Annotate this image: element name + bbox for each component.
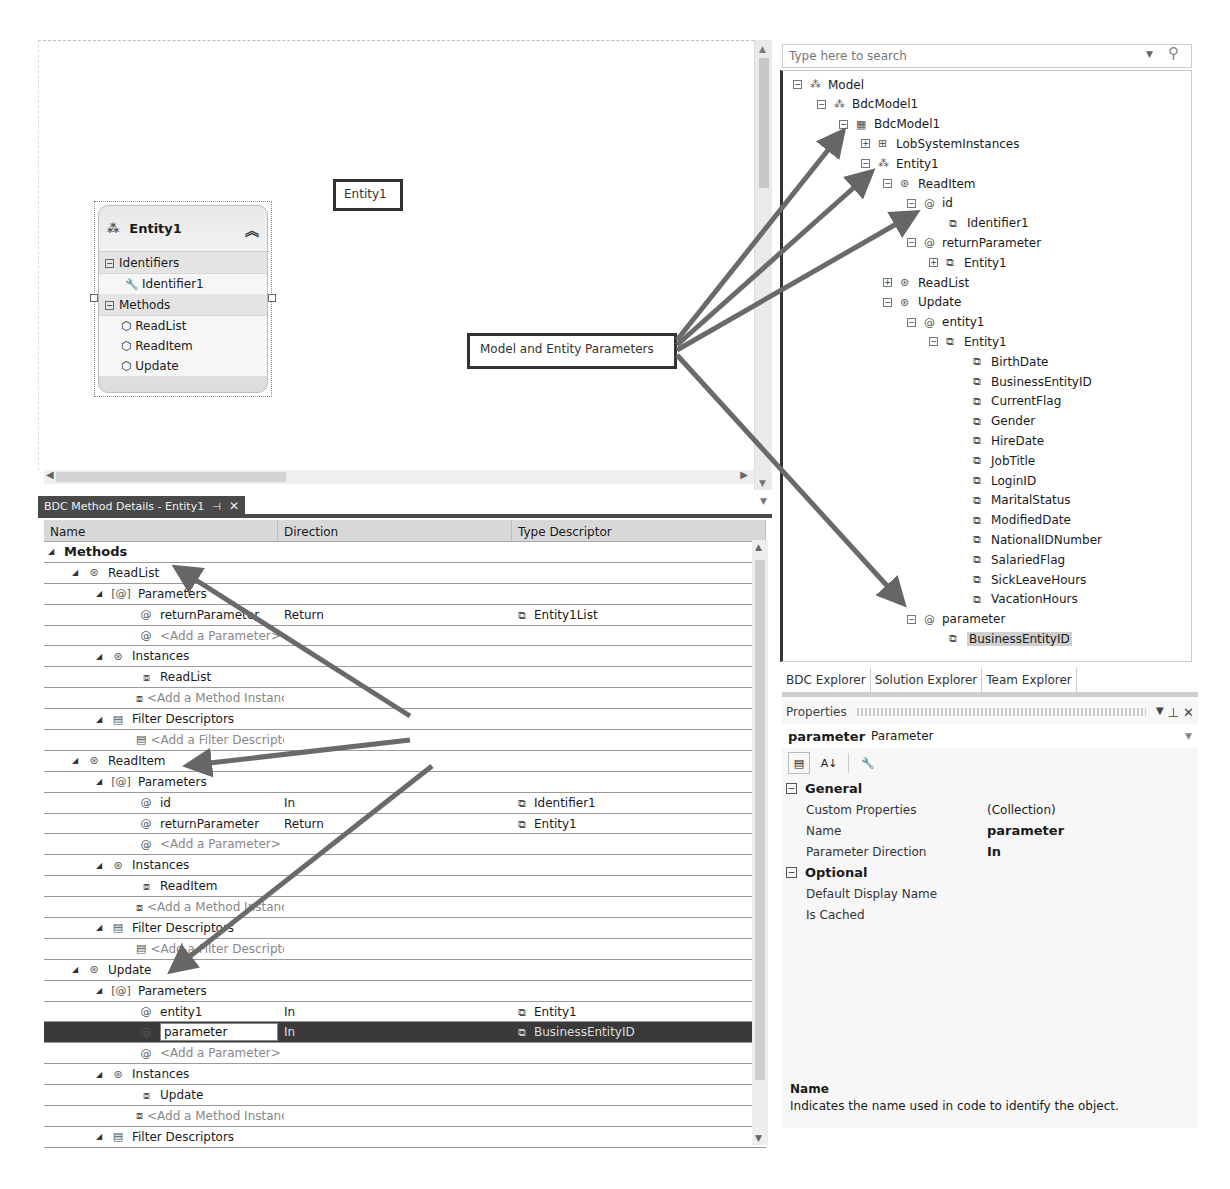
grid-row-params[interactable]: ◢[@]Parameters bbox=[44, 981, 766, 1002]
tree-node[interactable]: −⁂BdcModel1 bbox=[817, 95, 918, 114]
entity-shape[interactable]: ⁂ Entity1 ︽ −Identifiers 🔧Identifier1 −M… bbox=[94, 201, 272, 397]
cell-direction[interactable]: Return bbox=[284, 817, 518, 831]
tree-node[interactable]: ⧉SickLeaveHours bbox=[973, 570, 1086, 589]
cell-type-descriptor[interactable]: ⧉Entity1 bbox=[518, 817, 766, 831]
expand-triangle-icon[interactable]: ◢ bbox=[96, 652, 108, 661]
cell-name[interactable]: ◢⊛Instances bbox=[44, 858, 284, 872]
cell-name[interactable]: ⧈Update bbox=[44, 1088, 284, 1102]
cell-name[interactable]: ▤<Add a Filter Descriptor> bbox=[44, 733, 284, 747]
cell-name[interactable]: ⧈ReadList bbox=[44, 670, 284, 684]
tree-node[interactable]: −⧉Entity1 bbox=[929, 332, 1007, 351]
scroll-up-icon[interactable]: ▲ bbox=[755, 542, 762, 552]
grid-row-param-add[interactable]: @<Add a Parameter> bbox=[44, 626, 766, 647]
scroll-right-icon[interactable]: ▶ bbox=[740, 469, 748, 480]
section-methods[interactable]: −Methods bbox=[99, 294, 267, 316]
scroll-left-icon[interactable]: ◀ bbox=[46, 469, 54, 480]
grid-row-instances[interactable]: ◢⊛Instances bbox=[44, 1064, 766, 1085]
tab-dropdown-icon[interactable]: ▼ bbox=[760, 496, 767, 506]
connector-handle-left[interactable] bbox=[90, 294, 98, 302]
grid-row-instance-add[interactable]: ⧈<Add a Method Instance> bbox=[44, 688, 766, 709]
cell-name[interactable]: ◢⊛ReadItem bbox=[44, 754, 284, 768]
designer-horizontal-scrollbar[interactable]: ◀ ▶ bbox=[44, 470, 754, 484]
cell-name[interactable]: @returnParameter bbox=[44, 608, 284, 622]
expand-triangle-icon[interactable]: ◢ bbox=[96, 589, 108, 598]
cell-type-descriptor[interactable]: ⧉Entity1List bbox=[518, 608, 766, 622]
collapse-icon[interactable]: − bbox=[907, 199, 916, 208]
expand-icon[interactable]: + bbox=[861, 139, 870, 148]
cell-name[interactable]: @<Add a Parameter> bbox=[44, 1046, 284, 1060]
tree-node[interactable]: ⧉Gender bbox=[973, 412, 1035, 431]
cell-name[interactable]: ⧈<Add a Method Instance> bbox=[44, 691, 284, 705]
grid-row-method[interactable]: ◢⊛ReadItem bbox=[44, 751, 766, 772]
cell-name[interactable]: ◢▤Filter Descriptors bbox=[44, 921, 284, 935]
grid-row-filter-add[interactable]: ▤<Add a Filter Descriptor> bbox=[44, 730, 766, 751]
cell-direction[interactable]: Return bbox=[284, 608, 518, 622]
cell-name[interactable]: ◢[@]Parameters bbox=[44, 984, 284, 998]
tree-node[interactable]: ⧉MaritalStatus bbox=[973, 491, 1071, 510]
property-grid[interactable]: −GeneralCustom Properties(Collection)Nam… bbox=[782, 778, 1198, 925]
column-header-type-descriptor[interactable]: Type Descriptor bbox=[512, 520, 766, 541]
tree-node[interactable]: −⁂Model bbox=[793, 75, 864, 94]
cell-name[interactable]: @parameter bbox=[44, 1023, 284, 1041]
scroll-up-icon[interactable]: ▲ bbox=[759, 44, 766, 54]
grid-row-instance[interactable]: ⧈Update bbox=[44, 1085, 766, 1106]
collapse-icon[interactable]: − bbox=[817, 100, 826, 109]
grid-vertical-scrollbar[interactable]: ▲ ▼ bbox=[752, 540, 768, 1145]
cell-direction[interactable]: In bbox=[284, 1005, 518, 1019]
grid-row-root[interactable]: ◢Methods bbox=[44, 542, 766, 563]
collapse-icon[interactable]: − bbox=[883, 179, 892, 188]
tree-node[interactable]: −@returnParameter bbox=[907, 233, 1041, 252]
cell-type-descriptor[interactable]: ⧉BusinessEntityID bbox=[518, 1025, 766, 1039]
grid-row-instances[interactable]: ◢⊛Instances bbox=[44, 855, 766, 876]
grid-row-filters[interactable]: ◢▤Filter Descriptors bbox=[44, 709, 766, 730]
grid-row-instance-add[interactable]: ⧈<Add a Method Instance> bbox=[44, 897, 766, 918]
pin-icon[interactable]: ⊣ bbox=[212, 501, 221, 512]
collapse-icon[interactable]: − bbox=[883, 298, 892, 307]
scroll-down-icon[interactable]: ▼ bbox=[759, 478, 766, 488]
scroll-thumb[interactable] bbox=[755, 560, 765, 1080]
grid-row-params[interactable]: ◢[@]Parameters bbox=[44, 584, 766, 605]
tree-node[interactable]: ⧉BirthDate bbox=[973, 352, 1049, 371]
tree-node[interactable]: −▦BdcModel1 bbox=[839, 115, 940, 134]
tree-node[interactable]: ⧉SalariedFlag bbox=[973, 550, 1065, 569]
grid-row-param[interactable]: @returnParameterReturn⧉Entity1 bbox=[44, 814, 766, 835]
cell-name[interactable]: @<Add a Parameter> bbox=[44, 837, 284, 851]
collapse-icon[interactable]: − bbox=[907, 238, 916, 247]
alphabetical-sort-icon[interactable]: A↓ bbox=[818, 752, 840, 774]
property-row[interactable]: Parameter DirectionIn bbox=[782, 841, 1198, 862]
tab-solution-explorer[interactable]: Solution Explorer bbox=[871, 668, 983, 692]
tree-node[interactable]: −@entity1 bbox=[907, 313, 984, 332]
tree-node[interactable]: +⊛ReadList bbox=[883, 273, 969, 292]
cell-name[interactable]: ⧈<Add a Method Instance> bbox=[44, 900, 284, 914]
cell-name[interactable]: ▤<Add a Filter Descriptor> bbox=[44, 942, 284, 956]
grid-row-filters[interactable]: ◢▤Filter Descriptors bbox=[44, 1127, 766, 1148]
bdc-explorer-tree[interactable]: −⁂Model−⁂BdcModel1−▦BdcModel1+⊞LobSystem… bbox=[780, 70, 1192, 662]
grid-row-param[interactable]: @returnParameterReturn⧉Entity1List bbox=[44, 605, 766, 626]
expand-triangle-icon[interactable]: ◢ bbox=[72, 568, 84, 577]
property-value[interactable]: In bbox=[987, 844, 1198, 859]
cell-name[interactable]: ◢⊛Instances bbox=[44, 649, 284, 663]
grid-row-param-add[interactable]: @<Add a Parameter> bbox=[44, 834, 766, 855]
grid-row-method[interactable]: ◢⊛Update bbox=[44, 960, 766, 981]
tree-node[interactable]: ⧉NationalIDNumber bbox=[973, 530, 1102, 549]
grid-row-param-add[interactable]: @<Add a Parameter> bbox=[44, 1043, 766, 1064]
expand-icon[interactable]: + bbox=[929, 258, 938, 267]
grid-row-instance[interactable]: ⧈ReadItem bbox=[44, 876, 766, 897]
tree-node[interactable]: −⊛ReadItem bbox=[883, 174, 975, 193]
method-item[interactable]: ⬡ ReadList bbox=[99, 316, 267, 336]
expand-triangle-icon[interactable]: ◢ bbox=[96, 986, 108, 995]
property-row[interactable]: Nameparameter bbox=[782, 820, 1198, 841]
property-value[interactable]: parameter bbox=[987, 823, 1198, 838]
expand-triangle-icon[interactable]: ◢ bbox=[72, 965, 84, 974]
pin-icon[interactable]: ⊥ bbox=[1168, 705, 1179, 720]
collapse-icon[interactable]: − bbox=[907, 318, 916, 327]
grid-row-filters[interactable]: ◢▤Filter Descriptors bbox=[44, 918, 766, 939]
tree-node[interactable]: −@id bbox=[907, 194, 953, 213]
property-pages-wrench-icon[interactable]: 🔧 bbox=[857, 752, 879, 774]
grid-row-params[interactable]: ◢[@]Parameters bbox=[44, 772, 766, 793]
tree-node[interactable]: +⧉Entity1 bbox=[929, 253, 1007, 272]
tree-node[interactable]: ⧉ModifiedDate bbox=[973, 511, 1071, 530]
cell-name[interactable]: ◢▤Filter Descriptors bbox=[44, 1130, 284, 1144]
dropdown-icon[interactable]: ▼ bbox=[1156, 705, 1164, 720]
grid-row-param[interactable]: @parameterIn⧉BusinessEntityID bbox=[44, 1022, 766, 1043]
